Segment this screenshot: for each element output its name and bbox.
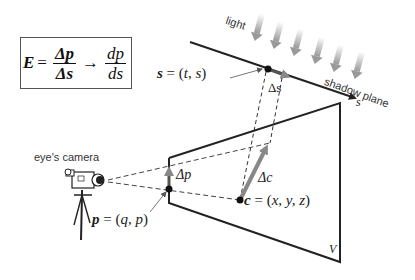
s-point-dot (265, 66, 272, 73)
formula-equals: = (37, 53, 47, 73)
formula-lhs: E (23, 53, 34, 73)
formula-box: E = Δp Δs → dp ds (20, 37, 132, 89)
frac1-denominator: Δs (54, 64, 75, 82)
c-point-label: c = (x, y, z) (244, 192, 310, 209)
frac2-numerator: dp (105, 45, 126, 64)
formula-arrow: → (82, 53, 99, 73)
camera-icon (65, 169, 104, 240)
eyes-camera-label: eye's camera (34, 151, 99, 163)
emittance-formula: E = Δp Δs → dp ds (21, 38, 131, 88)
p-point-dot (166, 186, 173, 193)
frac1-numerator: Δp (53, 45, 76, 64)
delta-p-label: Δp (176, 167, 191, 183)
frac2-denominator: ds (106, 64, 125, 82)
delta-s-label: Δs (268, 80, 281, 96)
volume-label: V (329, 242, 336, 257)
s-axis-label: s (356, 95, 361, 110)
delta-c-label: Δc (258, 170, 272, 186)
p-point-label: p = (q, p) (92, 211, 148, 228)
c-point-dot (237, 197, 244, 204)
s-point-label: s = (t, s) (157, 65, 206, 82)
